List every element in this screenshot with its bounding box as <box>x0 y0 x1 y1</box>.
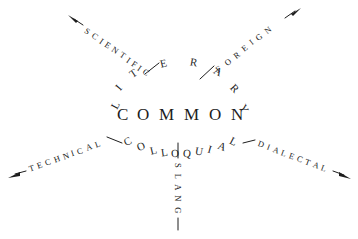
slang-letter: A <box>174 184 183 190</box>
slang-letter: N <box>174 195 183 201</box>
slang-letter: L <box>173 174 182 179</box>
dialectal-arrowhead-icon <box>339 172 351 179</box>
colloquial-letter: Q <box>183 148 192 160</box>
center-letter: M <box>184 106 200 123</box>
vocabulary-diagram: C O M M O N L I T E R A R Y C O L L O Q … <box>0 0 358 239</box>
slang-letter: G <box>174 207 183 213</box>
center-letter: O <box>209 106 222 123</box>
slang-letter: S <box>173 163 182 168</box>
scientific-arrowhead-icon <box>68 15 78 23</box>
technical-to-colloquial-connector <box>107 137 122 143</box>
center-letter: O <box>137 106 150 123</box>
colloquial-letter: O <box>171 148 180 159</box>
dialectal-to-colloquial-connector <box>243 140 255 143</box>
diagram-rules-layer <box>0 0 358 239</box>
technical-arrow-shaft <box>15 171 26 174</box>
foreign-arrowhead-icon <box>291 8 301 16</box>
colloquial-letter: L <box>160 147 168 159</box>
center-letter: M <box>159 106 175 123</box>
